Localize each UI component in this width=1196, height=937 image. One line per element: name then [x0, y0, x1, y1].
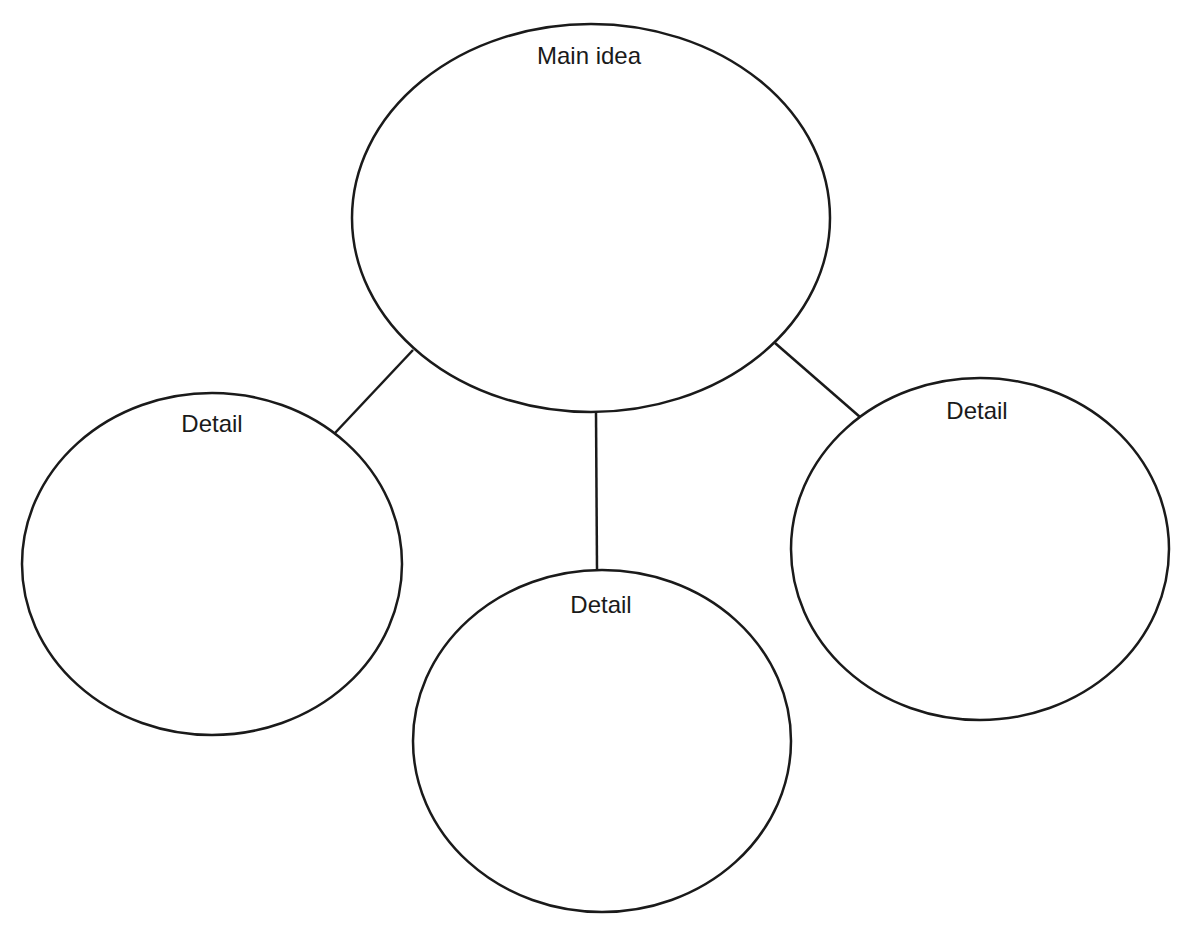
detail-label-right: Detail — [946, 397, 1007, 424]
main-idea-web-diagram: Main idea Detail Detail Detail — [0, 0, 1196, 937]
detail-label-left: Detail — [181, 410, 242, 437]
main-idea-ellipse[interactable] — [352, 24, 830, 412]
detail-label-middle: Detail — [570, 591, 631, 618]
detail-node-middle: Detail — [413, 570, 791, 912]
detail-ellipse-middle[interactable] — [413, 570, 791, 912]
connector-left — [335, 350, 413, 433]
detail-ellipse-left[interactable] — [22, 393, 402, 735]
detail-node-left: Detail — [22, 393, 402, 735]
connector-right — [775, 343, 860, 417]
detail-node-right: Detail — [791, 378, 1169, 720]
detail-ellipse-right[interactable] — [791, 378, 1169, 720]
main-idea-node: Main idea — [352, 24, 830, 412]
connector-middle — [596, 412, 597, 570]
main-idea-label: Main idea — [537, 42, 642, 69]
